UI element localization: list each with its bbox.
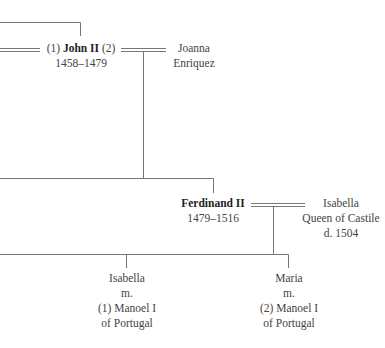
person-maria-child: Maria m. (2) Manoel I of Portugal xyxy=(252,271,326,331)
children-branch-line xyxy=(0,255,289,269)
married-label: m. xyxy=(90,286,164,301)
john-parent-line xyxy=(0,23,81,37)
person-dates: d. 1504 xyxy=(298,226,384,241)
person-name: Ferdinand II xyxy=(181,197,245,209)
person-dates: 1479–1516 xyxy=(176,211,250,226)
married-label: m. xyxy=(252,286,326,301)
person-name: Isabella xyxy=(298,196,384,211)
person-surname: Enriquez xyxy=(166,56,222,71)
person-ferdinand-ii: Ferdinand II 1479–1516 xyxy=(176,196,250,226)
spouse-title: of Portugal xyxy=(90,316,164,331)
person-name: Isabella xyxy=(90,271,164,286)
person-title: Queen of Castile xyxy=(298,211,384,226)
marriage-order-2: (2) xyxy=(102,42,115,54)
spouse-name: (1) Manoel I xyxy=(90,301,164,316)
marriage-line-1 xyxy=(0,49,40,52)
marriage-line-joanna xyxy=(121,49,166,52)
person-john-ii: (1) John II (2) 1458–1479 xyxy=(40,41,122,71)
marriage-order-1: (1) xyxy=(47,42,60,54)
person-name: Joanna xyxy=(166,41,222,56)
spouse-name: (2) Manoel I xyxy=(252,301,326,316)
ferdinand-branch-line xyxy=(0,179,214,194)
person-name: John II xyxy=(63,42,99,54)
person-isabella-child: Isabella m. (1) Manoel I of Portugal xyxy=(90,271,164,331)
person-name: Maria xyxy=(252,271,326,286)
spouse-title: of Portugal xyxy=(252,316,326,331)
person-isabella-castile: Isabella Queen of Castile d. 1504 xyxy=(298,196,384,241)
person-joanna-enriquez: Joanna Enriquez xyxy=(166,41,222,71)
marriage-line-isabella xyxy=(251,204,305,207)
person-dates: 1458–1479 xyxy=(40,56,122,71)
